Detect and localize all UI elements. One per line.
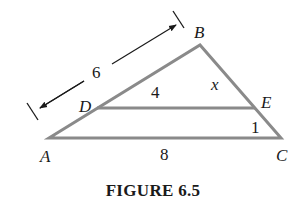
label-ec: 1 <box>251 118 260 137</box>
dimension-tick-start <box>27 103 38 120</box>
triangle-diagram: 6 4 x 1 8 A B C D E FIGURE 6.5 <box>0 0 306 206</box>
label-ab-total: 6 <box>92 63 101 82</box>
label-ac: 8 <box>160 145 169 164</box>
label-db: 4 <box>151 83 160 102</box>
triangle-abc <box>49 45 281 138</box>
vertex-label-d: D <box>78 97 92 116</box>
vertex-label-a: A <box>39 147 51 166</box>
vertex-label-b: B <box>194 23 205 42</box>
vertex-label-e: E <box>260 93 272 112</box>
label-be: x <box>210 75 219 94</box>
geometry-figure: 6 4 x 1 8 A B C D E FIGURE 6.5 <box>0 0 306 206</box>
vertex-label-c: C <box>276 146 288 165</box>
figure-caption: FIGURE 6.5 <box>106 181 201 200</box>
